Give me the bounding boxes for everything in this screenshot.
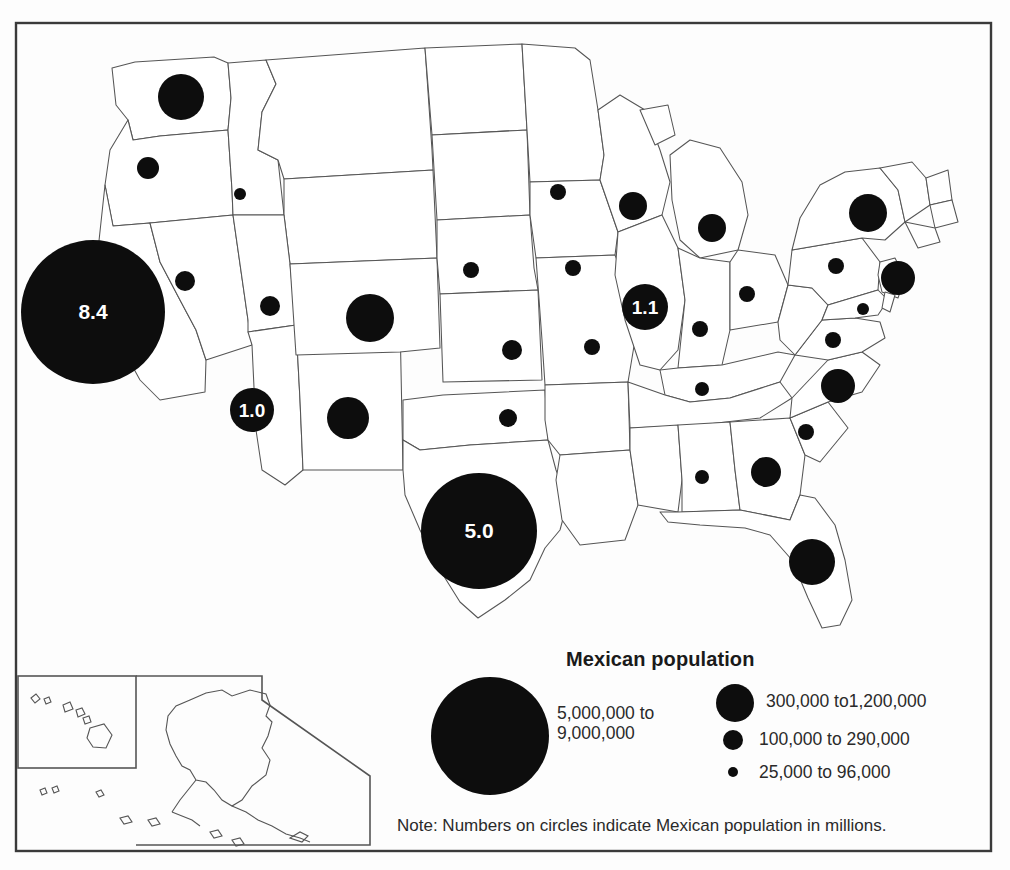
bubble-label-texas: 5.0 <box>464 519 493 542</box>
bubble-label-arizona: 1.0 <box>239 400 265 421</box>
bubble-north-carolina <box>821 369 855 403</box>
bubble-florida <box>789 539 835 585</box>
bubble-nebraska <box>463 262 479 278</box>
hawaii-islands <box>31 694 112 748</box>
alaska-inset-frame <box>136 676 370 845</box>
bubble-missouri <box>584 339 600 355</box>
bubble-virginia <box>825 332 841 348</box>
inset-panels <box>18 676 392 851</box>
bubble-indiana <box>692 321 708 337</box>
hawaii-inset-frame <box>18 676 136 768</box>
legend-symbol-0 <box>431 677 549 795</box>
bubble-oregon <box>137 157 159 179</box>
legend-label-largest-line1: 5,000,000 to <box>557 704 707 724</box>
bubble-new-mexico <box>327 397 369 439</box>
legend-label-small: 25,000 to 96,000 <box>759 763 890 783</box>
bubble-iowa <box>565 260 581 276</box>
bubble-south-carolina <box>798 424 814 440</box>
bubble-label-illinois: 1.1 <box>632 297 659 318</box>
bubble-minnesota <box>550 184 566 200</box>
bubble-ohio <box>739 286 755 302</box>
bubble-kansas <box>502 340 522 360</box>
bubble-alabama <box>695 470 709 484</box>
bubble-utah <box>260 296 280 316</box>
legend-symbol-2 <box>723 730 743 750</box>
legend-label-largest-line2: 9,000,000 <box>557 724 707 744</box>
legend-symbol-1 <box>716 684 754 722</box>
bubble-new-jersey <box>881 261 915 295</box>
legend-symbol-3 <box>728 767 738 777</box>
bubble-wisconsin <box>619 192 647 220</box>
bubble-oklahoma <box>499 409 517 427</box>
bubble-label-california: 8.4 <box>78 300 108 323</box>
bubble-tennessee <box>695 382 709 396</box>
bubble-michigan <box>698 214 726 242</box>
bubble-idaho <box>234 188 246 200</box>
legend-title: Mexican population <box>566 648 754 671</box>
bubble-georgia <box>751 457 781 487</box>
legend-label-largest: 5,000,000 to 9,000,000 <box>557 704 707 743</box>
bubble-new-york <box>849 194 887 232</box>
bubble-pennsylvania <box>828 258 844 274</box>
legend-label-medium: 100,000 to 290,000 <box>759 730 910 750</box>
bubble-maryland <box>857 303 869 315</box>
figure-note: Note: Numbers on circles indicate Mexica… <box>397 816 886 836</box>
bubble-nevada <box>175 271 195 291</box>
legend-label-large: 300,000 to1,200,000 <box>766 692 927 712</box>
bubble-washington <box>158 74 204 120</box>
bubble-colorado <box>346 294 394 342</box>
figure-container: 8.45.01.11.0 Mexican population 5,000,00… <box>0 0 1010 870</box>
